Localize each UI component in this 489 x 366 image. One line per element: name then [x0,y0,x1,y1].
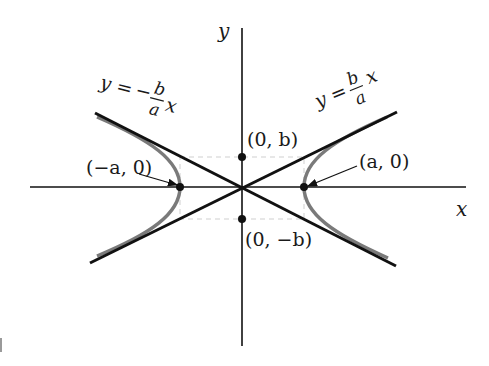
asymptote-negative-equation: y = − b a x [94,64,183,123]
bottom-covertex-label: (0, −b) [245,228,312,250]
svg-text:a: a [352,86,369,108]
svg-text:a: a [147,98,162,120]
right-vertex-dot [300,183,308,191]
top-covertex-label: (0, b) [247,128,298,150]
y-axis-label: y [217,19,230,43]
svg-text:b: b [344,67,362,90]
svg-text:x: x [362,63,380,88]
right-vertex-label: (a, 0) [359,150,409,172]
svg-text:y =: y = [97,70,135,100]
x-axis-label: x [456,197,467,221]
right-vertex-arrow [308,166,357,186]
asymptote-positive-equation: y = b a x [308,60,386,123]
hyperbola-diagram: y x (−a, 0) (a, 0) (0, b) (0, −b) y = − … [0,0,489,366]
svg-text:x: x [164,93,180,117]
left-vertex-dot [176,183,184,191]
edge-artifact [0,338,2,352]
left-vertex-label: (−a, 0) [86,156,152,178]
svg-text:y =: y = [310,79,349,112]
bottom-covertex-dot [238,215,246,223]
svg-text:b: b [152,78,167,100]
top-covertex-dot [238,153,246,161]
